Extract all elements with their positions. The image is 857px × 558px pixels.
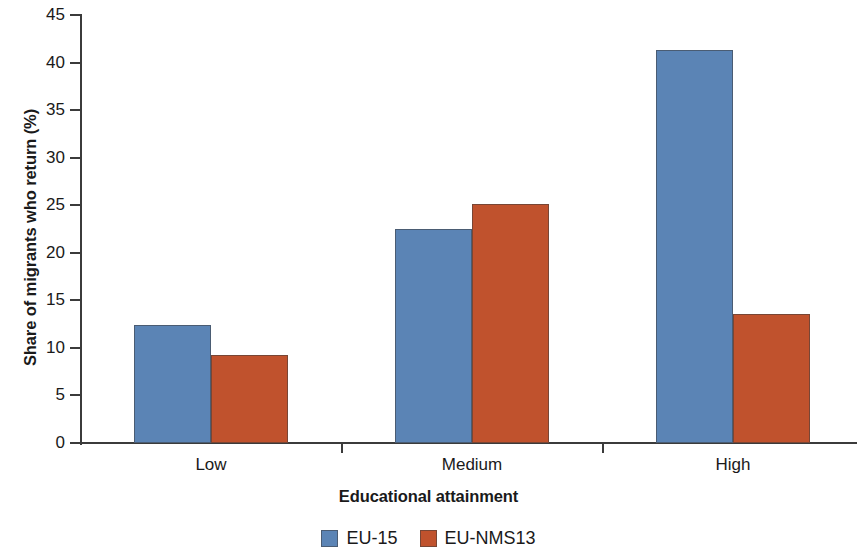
y-axis-tick xyxy=(70,62,80,64)
bar-high-eu-nms13 xyxy=(733,314,810,443)
x-axis-title: Educational attainment xyxy=(0,487,857,506)
y-axis-tick xyxy=(70,442,80,444)
y-axis-tick-label: 5 xyxy=(10,386,65,403)
bar-chart: Share of migrants who return (%) 0510152… xyxy=(0,0,857,558)
legend-item-eu-nms13[interactable]: EU-NMS13 xyxy=(420,529,536,547)
bar-high-eu-15 xyxy=(656,50,733,443)
y-axis-tick xyxy=(70,394,80,396)
bar-medium-eu-15 xyxy=(395,229,472,443)
y-axis-tick xyxy=(70,109,80,111)
y-axis-tick-label-text: 35 xyxy=(15,101,65,118)
y-axis-tick-label: 30 xyxy=(10,149,65,166)
bar-medium-eu-nms13 xyxy=(472,204,549,443)
bar-low-eu-15 xyxy=(134,325,211,443)
y-axis-tick-label: 20 xyxy=(10,244,65,261)
y-axis-tick-label: 0 xyxy=(10,434,65,451)
y-axis-tick xyxy=(70,157,80,159)
chart-legend: EU-15EU-NMS13 xyxy=(0,529,857,547)
y-axis-tick xyxy=(70,347,80,349)
y-axis-tick xyxy=(70,299,80,301)
y-axis-tick-label-text: 5 xyxy=(15,386,65,403)
y-axis-tick-label-text: 30 xyxy=(15,149,65,166)
y-axis-tick-label-text: 0 xyxy=(15,434,65,451)
y-axis-tick-label: 25 xyxy=(10,196,65,213)
blue-swatch-icon xyxy=(321,530,338,547)
y-axis-tick xyxy=(70,252,80,254)
x-axis-label-high: High xyxy=(653,455,813,475)
x-axis-separator-tick xyxy=(341,444,343,453)
y-axis-tick-label-text: 20 xyxy=(15,244,65,261)
y-axis-tick-label: 10 xyxy=(10,339,65,356)
x-axis-separator-tick xyxy=(602,444,604,453)
bar-low-eu-nms13 xyxy=(211,355,288,443)
y-axis-tick-label-text: 45 xyxy=(15,6,65,23)
y-axis-tick-label-text: 10 xyxy=(15,339,65,356)
y-axis-tick xyxy=(70,204,80,206)
x-axis-label-low: Low xyxy=(131,455,291,475)
legend-label: EU-15 xyxy=(346,529,397,547)
y-axis-tick-label-text: 40 xyxy=(15,54,65,71)
y-axis-tick-label: 40 xyxy=(10,54,65,71)
x-axis-label-medium: Medium xyxy=(392,455,552,475)
y-axis-tick-label: 45 xyxy=(10,6,65,23)
y-axis-line xyxy=(80,14,82,445)
y-axis-tick-label-text: 15 xyxy=(15,291,65,308)
y-axis-tick-label: 15 xyxy=(10,291,65,308)
y-axis-tick-label: 35 xyxy=(10,101,65,118)
legend-item-eu-15[interactable]: EU-15 xyxy=(321,529,397,547)
y-axis-tick-label-text: 25 xyxy=(15,196,65,213)
orange-swatch-icon xyxy=(420,530,437,547)
y-axis-tick xyxy=(70,14,80,16)
legend-label: EU-NMS13 xyxy=(445,529,536,547)
